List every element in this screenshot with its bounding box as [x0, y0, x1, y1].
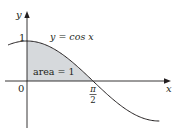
x-axis-label: x	[166, 83, 172, 94]
area-label: area = 1	[33, 66, 75, 77]
x-tick-pi-numerator: π	[89, 84, 96, 94]
curve-label: y = cos x	[49, 31, 94, 42]
y-axis-label: y	[15, 9, 22, 20]
y-tick-1: 1	[19, 32, 25, 43]
origin-label: 0	[18, 83, 24, 94]
chart-svg: y 1 y = cos x area = 1 0 π 2 x	[0, 0, 183, 138]
chart-figure: y 1 y = cos x area = 1 0 π 2 x	[0, 0, 183, 138]
x-tick-pi-denominator: 2	[90, 95, 95, 105]
y-axis-arrow-icon	[24, 11, 29, 18]
